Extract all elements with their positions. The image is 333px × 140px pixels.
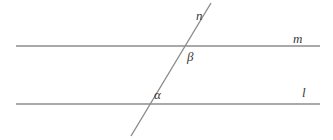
- angle-label-beta: β: [187, 50, 193, 63]
- line-label-m: m: [293, 32, 302, 45]
- geometry-diagram: n m l β α: [0, 0, 333, 140]
- angle-label-alpha: α: [154, 88, 161, 101]
- line-label-n: n: [196, 9, 203, 22]
- geometry-canvas: [0, 0, 333, 140]
- line-label-l: l: [302, 86, 306, 99]
